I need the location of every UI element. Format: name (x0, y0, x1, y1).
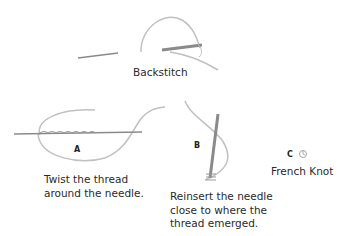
step-b-letter: B (194, 141, 200, 150)
french-knot-icon (300, 151, 307, 158)
needle-left-icon (78, 53, 118, 58)
step-b-caption: Reinsert the needle close to where the t… (170, 190, 273, 231)
needle-icon (162, 45, 202, 50)
step-c-letter: C (287, 150, 293, 159)
step-b-illustration (185, 101, 228, 180)
french-knot-label: French Knot (271, 165, 333, 179)
step-a-illustration (14, 107, 165, 161)
backstitch-label: Backstitch (133, 66, 188, 80)
step-a-letter: A (74, 145, 80, 154)
backstitch-illustration (78, 17, 218, 70)
step-a-caption: Twist the thread around the needle. (44, 173, 144, 200)
